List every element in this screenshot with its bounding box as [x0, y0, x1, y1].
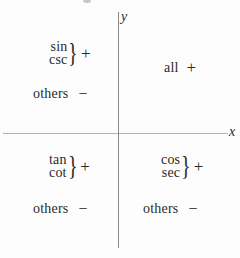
quadrant2-function-stack: sin csc — [49, 40, 67, 66]
quadrant1-label: all — [164, 61, 179, 75]
plus-sign: + — [80, 158, 90, 175]
right-brace-icon: } — [68, 153, 78, 179]
x-axis-label: x — [229, 125, 235, 139]
quadrant4-functions-group: cos sec } + — [161, 153, 203, 179]
trig-signs-quadrant-figure: y x all + sin csc } + others − tan cot }… — [0, 0, 240, 258]
quadrant3-functions-group: tan cot } + — [49, 153, 90, 179]
right-brace-icon: } — [68, 40, 78, 66]
plus-sign: + — [194, 158, 204, 175]
quadrant2-others-row: others − — [33, 87, 88, 101]
quadrant3-others-row: others − — [33, 202, 88, 216]
right-brace-icon: } — [181, 153, 191, 179]
quadrant4-function-stack: cos sec — [161, 153, 180, 179]
x-axis-line — [3, 133, 228, 134]
function-name: sec — [162, 166, 180, 179]
plus-sign: + — [81, 45, 91, 62]
y-axis-label: y — [121, 10, 127, 24]
cropped-caption-remnant — [83, 0, 91, 3]
quadrant4-others-row: others − — [143, 202, 198, 216]
minus-sign: − — [78, 87, 87, 101]
function-name: cot — [49, 166, 67, 179]
function-name: csc — [49, 53, 67, 66]
others-label: others — [143, 202, 178, 216]
quadrant3-function-stack: tan cot — [49, 153, 67, 179]
plus-sign: + — [187, 61, 197, 75]
minus-sign: − — [188, 202, 197, 216]
y-axis-line — [118, 12, 119, 248]
others-label: others — [33, 87, 68, 101]
quadrant2-functions-group: sin csc } + — [49, 40, 91, 66]
quadrant1-all-row: all + — [164, 61, 196, 75]
minus-sign: − — [78, 202, 87, 216]
others-label: others — [33, 202, 68, 216]
